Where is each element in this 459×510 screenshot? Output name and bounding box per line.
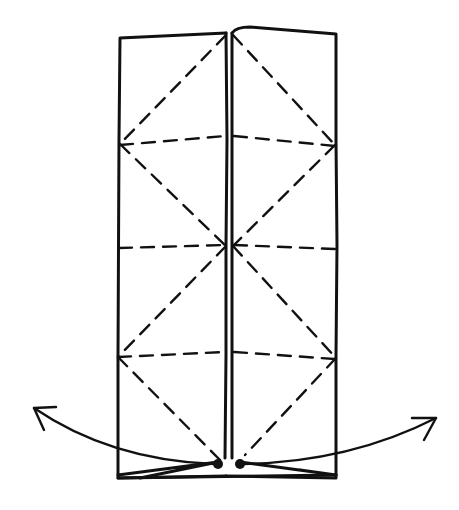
fold-diag-r1 [233, 35, 335, 145]
paper-outline [118, 27, 337, 478]
fold-diag-l4 [118, 357, 222, 462]
fold-line-h2-right [234, 245, 336, 249]
fold-diag-r2 [233, 145, 335, 246]
fold-line-h1-left [120, 136, 225, 145]
fold-line-h3-left [118, 352, 225, 357]
fold-line-h2-left [119, 245, 225, 248]
fold-diag-r4 [245, 358, 336, 455]
left-pull-arrow [34, 407, 214, 464]
fold-diag-l2 [120, 144, 226, 246]
fold-diag-l1 [120, 35, 226, 144]
fold-line-h3-right [234, 352, 335, 359]
left-arrow-curve [34, 408, 214, 464]
origami-diagram [0, 0, 459, 510]
fold-diag-l3 [118, 246, 226, 357]
right-panel-outline [226, 27, 337, 478]
fold-diag-r3 [233, 246, 336, 358]
fold-line-h1-right [234, 136, 335, 146]
